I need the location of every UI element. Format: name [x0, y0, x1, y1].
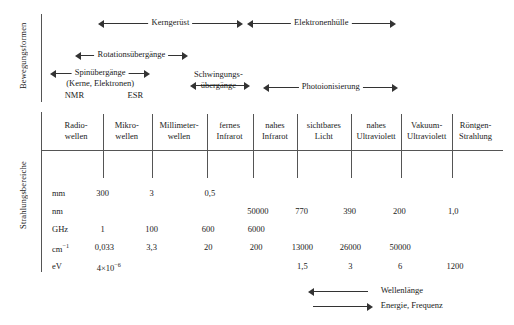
motion-text-2: ESR: [127, 91, 143, 100]
unit-label-cm-1: cm−1: [52, 242, 69, 254]
unit-label-eV: eV: [52, 261, 62, 271]
spectrum-band-5[interactable]: sichtbaresLicht: [297, 120, 351, 141]
value-mm-0: 300: [96, 188, 109, 198]
motion-text-1: NMR: [65, 91, 84, 100]
band-label-line: Infrarot: [253, 131, 298, 142]
arrow-head-left-icon: [308, 288, 314, 296]
scale-tick-3: [253, 151, 254, 178]
value-eV-2: 3: [348, 261, 352, 271]
value-cm-1-4: 13000: [292, 242, 313, 252]
band-divider-6: [401, 114, 402, 154]
value-nm-3: 200: [393, 206, 406, 216]
band-label-line: nahes: [351, 120, 401, 131]
band-divider-0: [103, 114, 104, 154]
scale-tick-0: [103, 151, 104, 178]
band-label-line: Mikro-: [102, 120, 151, 131]
band-label-line: Röntgen-: [450, 120, 501, 131]
legend-arrow-left: [308, 286, 373, 297]
arrow-label: Spinübergänge: [72, 67, 129, 77]
spectrum-band-3[interactable]: fernesInfrarot: [207, 120, 252, 141]
value-cm-1-1: 3,3: [146, 242, 157, 252]
band-label-line: wellen: [50, 131, 103, 142]
value-GHz-0: 1: [101, 224, 105, 234]
motion-forms-axis-label: Bewegungsformen: [18, 8, 30, 104]
scale-tick-7: [452, 151, 453, 178]
radiation-ranges-axis-rule: [41, 112, 42, 272]
band-label-line: Strahlung: [450, 131, 501, 142]
arrow-head-left-icon: [75, 52, 81, 60]
band-divider-2: [207, 114, 208, 154]
arrow-head-right-icon: [367, 303, 373, 311]
arrow-head-left-icon: [247, 20, 253, 28]
unit-label-GHz: GHz: [52, 224, 68, 234]
value-nm-2: 390: [343, 206, 356, 216]
value-nm-1: 770: [295, 206, 308, 216]
value-cm-1-2: 20: [204, 242, 213, 252]
band-label-line: wellen: [102, 131, 151, 142]
arrow-head-left-icon: [190, 82, 196, 90]
value-cm-1-5: 26000: [340, 242, 361, 252]
legend-arrow-right: [308, 301, 373, 312]
value-eV-0: 4×10−6: [97, 261, 121, 273]
motion-text-3: Schwingungs-: [194, 70, 243, 79]
value-GHz-1: 100: [145, 224, 158, 234]
scale-tick-4: [297, 151, 298, 178]
band-label-line: Millimeter-: [151, 120, 207, 131]
arrow-head-right-icon: [144, 70, 150, 78]
arrow-head-right-icon: [390, 20, 396, 28]
arrow-head-left-icon: [50, 70, 56, 78]
spectrum-band-6[interactable]: nahesUltraviolett: [351, 120, 401, 141]
spectrum-band-1[interactable]: Mikro-wellen: [102, 120, 151, 141]
value-cm-1-3: 200: [250, 242, 263, 252]
band-label-line: fernes: [207, 120, 252, 131]
value-mm-2: 0,5: [205, 188, 216, 198]
value-nm-4: 1,0: [448, 206, 459, 216]
spectrum-band-8[interactable]: Röntgen-Strahlung: [450, 120, 501, 141]
value-cm-1-6: 50000: [390, 242, 411, 252]
value-eV-1: 1,5: [297, 261, 308, 271]
value-eV-4: 1200: [447, 261, 464, 271]
spectrum-diagram: Bewegungsformen KerngerüstElektronenhüll…: [0, 0, 514, 325]
scale-tick-6: [401, 151, 402, 178]
motion-arrow-2: Rotationsübergänge: [75, 50, 187, 61]
scale-tick-5: [351, 151, 352, 178]
arrow-head-right-icon: [244, 82, 250, 90]
spectrum-band-7[interactable]: Vakuum-Ultraviolett: [401, 120, 452, 141]
motion-forms-axis-rule: [41, 14, 42, 102]
arrow-line: [313, 306, 368, 307]
band-label-line: Radio-: [50, 120, 103, 131]
band-divider-1: [152, 114, 153, 154]
value-GHz-3: 6000: [248, 224, 265, 234]
radiation-ranges-axis-label: Strahlungsbereiche: [18, 120, 30, 270]
motion-arrow-0: Kerngerüst: [98, 18, 244, 29]
spectrum-band-0[interactable]: Radio-wellen: [50, 120, 103, 141]
band-label-line: Ultraviolett: [351, 131, 401, 142]
band-divider-3: [253, 114, 254, 154]
arrow-head-right-icon: [392, 84, 398, 92]
arrow-label: Rotationsübergänge: [95, 49, 169, 59]
arrow-head-left-icon: [263, 84, 269, 92]
band-divider-4: [297, 114, 298, 154]
arrow-label: Photoionisierung: [299, 81, 363, 91]
spectrum-band-4[interactable]: nahesInfrarot: [253, 120, 298, 141]
legend-label-1: Energie, Frequenz: [381, 300, 443, 310]
spectrum-band-2[interactable]: Millimeter-wellen: [151, 120, 207, 141]
motion-text-4: übergänge: [201, 81, 236, 90]
arrow-head-right-icon: [182, 52, 188, 60]
band-label-line: Ultraviolett: [401, 131, 452, 142]
motion-arrow-1: Elektronenhülle: [247, 18, 396, 29]
legend-label-0: Wellenlänge: [381, 285, 423, 295]
arrow-head-right-icon: [237, 20, 243, 28]
value-mm-1: 3: [149, 188, 153, 198]
band-label-line: Infrarot: [207, 131, 252, 142]
unit-label-mm: mm: [52, 188, 65, 198]
unit-label-nm: nm: [52, 206, 63, 216]
arrow-line: [313, 291, 368, 292]
band-label-line: wellen: [151, 131, 207, 142]
spectrum-baseline: [41, 150, 503, 151]
scale-tick-2: [207, 151, 208, 178]
value-GHz-2: 600: [202, 224, 215, 234]
band-divider-7: [452, 114, 453, 154]
motion-arrow-4: Photoionisierung: [263, 82, 398, 93]
band-label-line: Licht: [297, 131, 351, 142]
